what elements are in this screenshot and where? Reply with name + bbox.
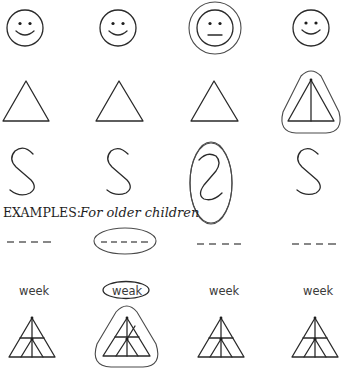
examples-heading: EXAMPLES: For older children	[3, 205, 199, 220]
triangle-with-center-line-icon-circled	[282, 71, 340, 133]
worksheet-figure: EXAMPLES: For older children	[0, 0, 344, 369]
divided-triangles-row	[9, 306, 338, 367]
word-weak: weak	[112, 284, 143, 298]
dashes-five-circled	[94, 228, 156, 254]
triangle-icon	[3, 81, 49, 121]
words-row: week weak week week	[19, 282, 334, 299]
heading-prefix: EXAMPLES:	[3, 205, 81, 220]
word-week: week	[303, 284, 334, 298]
triangle-icon	[96, 81, 143, 121]
divided-triangle-icon	[198, 317, 244, 357]
smiley-face-icon	[293, 10, 329, 46]
faces-row	[7, 2, 329, 54]
word-week: week	[19, 284, 50, 298]
dashes-row	[7, 228, 336, 254]
word-weak-circled: weak	[103, 282, 149, 299]
divided-triangle-variant-icon-circled	[95, 306, 158, 367]
smiley-face-icon	[7, 10, 43, 46]
divided-triangle-icon	[292, 317, 338, 357]
divided-triangle-icon	[9, 317, 55, 357]
heading-suffix: For older children	[79, 205, 199, 220]
letter-s-icon	[107, 149, 130, 195]
smiley-face-icon	[100, 10, 136, 46]
triangles-row	[3, 71, 340, 133]
letter-s-icon	[10, 148, 34, 195]
triangle-icon	[191, 81, 238, 121]
letter-s-icon	[297, 149, 320, 195]
neutral-face-icon-circled	[189, 2, 241, 54]
word-week: week	[209, 284, 240, 298]
